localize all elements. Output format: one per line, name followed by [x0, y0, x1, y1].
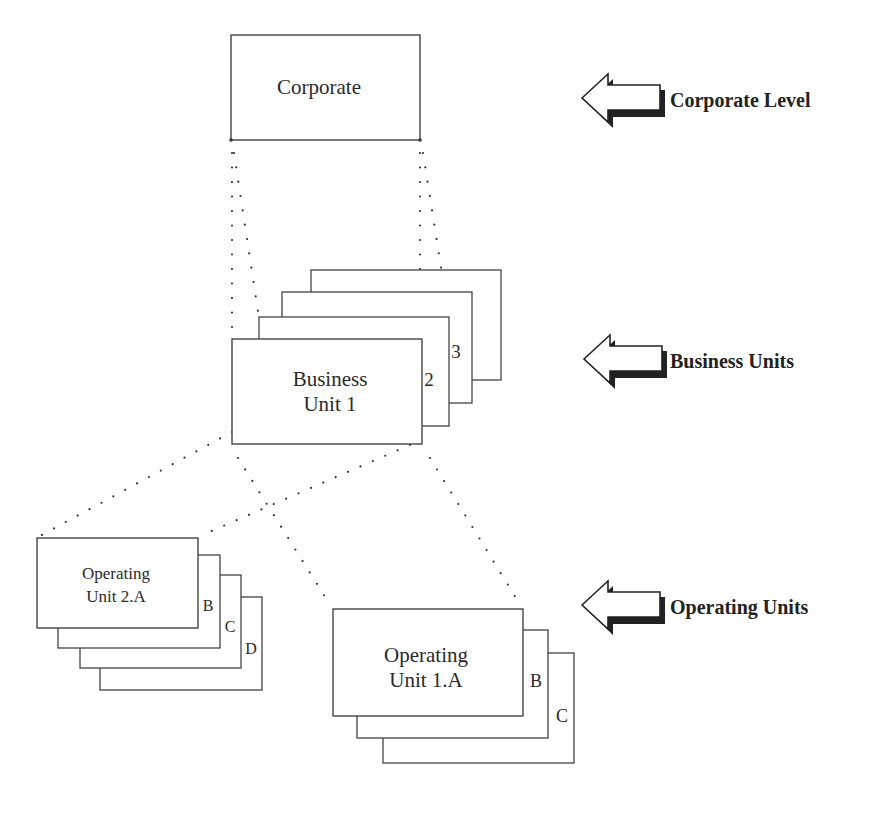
left-arrow-icon [582, 581, 665, 635]
operating-unit-2-card-a [37, 538, 198, 628]
operating-unit-2-stack: D C B Operating Unit 2.A [37, 538, 262, 690]
operating-unit-2a-label-line2: Unit 2.A [86, 587, 146, 606]
corporate-box: Corporate [229, 35, 422, 142]
level-label-operating: Operating Units [582, 581, 809, 635]
level-label-corporate-text: Corporate Level [670, 89, 811, 112]
operating-unit-2a-label-line1: Operating [82, 564, 150, 583]
operating-unit-1a-label-line1: Operating [384, 643, 468, 667]
corporate-label: Corporate [277, 75, 361, 99]
level-label-business-text: Business Units [670, 350, 794, 372]
operating-unit-1-stack: C B Operating Unit 1.A [333, 609, 574, 763]
operating-unit-1-tab-c: C [556, 706, 568, 726]
level-label-operating-text: Operating Units [670, 596, 809, 619]
org-hierarchy-diagram: Corporate 3 2 Business Unit 1 D C B Oper… [0, 0, 881, 817]
left-arrow-icon [584, 335, 667, 389]
left-arrow-icon [582, 74, 665, 128]
operating-unit-2-tab-d: D [245, 640, 257, 657]
business-unit-1-label-line2: Unit 1 [303, 392, 356, 416]
business-units-stack: 3 2 Business Unit 1 [232, 270, 501, 444]
level-label-business: Business Units [584, 335, 794, 389]
business-unit-1-label-line1: Business [293, 367, 368, 391]
operating-unit-2-tab-c: C [225, 618, 236, 635]
business-unit-tab-2: 2 [424, 369, 434, 390]
operating-unit-1-tab-b: B [530, 671, 542, 691]
operating-unit-2-tab-b: B [203, 597, 214, 614]
level-label-corporate: Corporate Level [582, 74, 811, 128]
operating-unit-1a-label-line2: Unit 1.A [389, 668, 463, 692]
business-unit-tab-3: 3 [451, 341, 461, 362]
